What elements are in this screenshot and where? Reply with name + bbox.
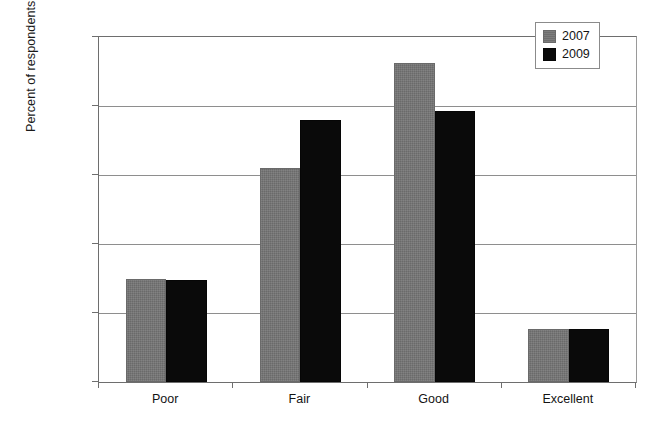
plot-area <box>98 36 637 383</box>
legend-label: 2009 <box>562 48 590 61</box>
x-axis-label-excellent: Excellent <box>508 392 628 406</box>
legend[interactable]: 20072009 <box>535 22 600 69</box>
x-axis-label-fair: Fair <box>239 392 359 406</box>
bar-excellent-2007[interactable] <box>528 329 569 382</box>
legend-swatch-icon-2009 <box>543 48 556 61</box>
legend-item-2009[interactable]: 2009 <box>543 45 590 63</box>
legend-label: 2007 <box>562 30 590 43</box>
bar-good-2009[interactable] <box>435 111 476 382</box>
x-axis-label-poor: Poor <box>105 392 225 406</box>
bar-poor-2009[interactable] <box>166 280 207 382</box>
gridline <box>99 106 636 107</box>
legend-item-2007[interactable]: 2007 <box>543 27 590 45</box>
x-axis-label-good: Good <box>374 392 494 406</box>
bar-chart: Percent of respondents 0%10%20%30%40%50%… <box>0 0 669 432</box>
bar-poor-2007[interactable] <box>126 279 167 382</box>
legend-swatch-icon-2007 <box>543 30 556 43</box>
bar-good-2007[interactable] <box>394 63 435 382</box>
gridline <box>99 175 636 176</box>
bar-excellent-2009[interactable] <box>569 329 610 382</box>
gridline <box>99 244 636 245</box>
y-axis-title: Percent of respondents <box>24 0 46 132</box>
bar-fair-2007[interactable] <box>260 168 301 382</box>
bar-fair-2009[interactable] <box>300 120 341 382</box>
